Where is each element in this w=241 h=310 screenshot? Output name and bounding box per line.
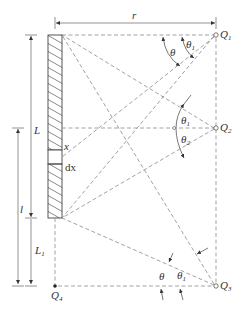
construction-lines xyxy=(55,35,216,286)
Q2-label: Q2 xyxy=(220,121,232,135)
Q4-label: Q4 xyxy=(51,289,63,303)
r-label: r xyxy=(132,9,137,21)
L1-label: L1 xyxy=(34,244,45,258)
Q1-label: Q1 xyxy=(220,28,231,42)
dx-label: dx xyxy=(65,161,77,173)
theta1-Q2-label: θ1 xyxy=(181,114,190,128)
L-label: L xyxy=(33,124,40,136)
Q4-point xyxy=(53,284,57,288)
theta-Q1-label: θ xyxy=(170,46,176,58)
Q2-point xyxy=(214,126,218,130)
angle-arrows-Q3 xyxy=(161,248,208,300)
theta-Q3-label: θ xyxy=(159,270,165,282)
line-source-bar xyxy=(48,35,62,218)
x-label: x xyxy=(63,140,69,152)
theta1-Q1-label: θ1 xyxy=(186,38,195,52)
theta2-Q2-label: θ2 xyxy=(181,133,190,147)
Q1-point xyxy=(214,33,218,37)
l-label: l xyxy=(20,203,23,215)
Q3-label: Q3 xyxy=(220,279,232,293)
dx-element xyxy=(48,150,62,164)
Q3-point xyxy=(214,284,218,288)
line-source-diagram: r L l L1 x dx Q1 xyxy=(0,0,241,310)
theta1-Q3-label: θ1 xyxy=(177,269,186,283)
